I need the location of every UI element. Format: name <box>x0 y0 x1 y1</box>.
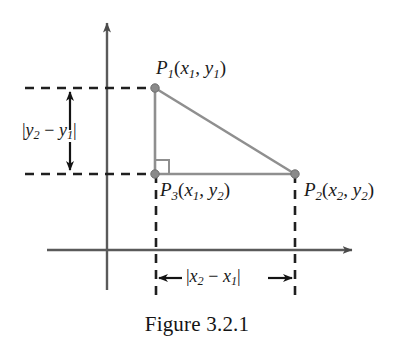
point-p3-dot <box>151 170 159 178</box>
p1-x-var: x <box>180 57 188 78</box>
horizontal-distance-label: |x2 − x1| <box>186 267 241 285</box>
p3-close-paren: ) <box>224 179 230 200</box>
point-p2-label: P2(x2, y2) <box>304 180 374 199</box>
dx-bar-close: | <box>237 266 241 286</box>
point-p3-label: P3(x1, y2) <box>160 180 230 199</box>
p2-x-var: x <box>328 179 336 200</box>
p2-letter: P <box>304 179 316 200</box>
dy-y-a: y <box>26 120 34 140</box>
p1-close-paren: ) <box>220 57 226 78</box>
point-p2-dot <box>291 170 299 178</box>
p3-x-var: x <box>184 179 192 200</box>
p2-y-var: y <box>353 179 361 200</box>
dx-x-b: x <box>223 266 231 286</box>
p1-y-var: y <box>205 57 213 78</box>
figure-caption: Figure 3.2.1 <box>0 312 394 337</box>
figure-container: P1(x1, y1) P2(x2, y2) P3(x1, y2) |y2 − y… <box>0 0 394 348</box>
dx-minus: − <box>204 266 223 286</box>
point-p1-dot <box>151 84 159 92</box>
triangle-hypotenuse <box>155 88 295 174</box>
coordinate-diagram <box>0 0 394 348</box>
p1-comma: , <box>195 57 205 78</box>
dy-bar-close: | <box>73 120 77 140</box>
p3-y-var: y <box>209 179 217 200</box>
p1-letter: P <box>156 57 168 78</box>
dy-minus: − <box>40 120 59 140</box>
p2-close-paren: ) <box>368 179 374 200</box>
point-p1-label: P1(x1, y1) <box>156 58 226 77</box>
dx-x-a: x <box>190 266 198 286</box>
vertical-distance-label: |y2 − y1| <box>22 121 77 139</box>
right-triangle <box>155 88 295 174</box>
p3-comma: , <box>199 179 209 200</box>
p3-letter: P <box>160 179 172 200</box>
p2-comma: , <box>343 179 353 200</box>
dy-y-b: y <box>59 120 67 140</box>
